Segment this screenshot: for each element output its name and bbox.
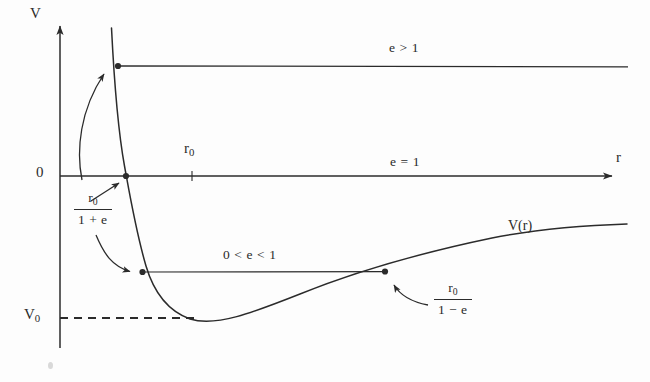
v-min-label-base: V	[24, 306, 35, 322]
potential-curve-group	[112, 28, 628, 321]
perihelion-fraction-bar	[74, 209, 112, 210]
energy-level-lines	[60, 66, 628, 318]
elliptic-aphelion-dot	[382, 268, 388, 274]
perihelion-numerator: r0	[74, 190, 112, 209]
turning-point-markers	[115, 63, 388, 275]
r0-tick-label-subscript: 0	[189, 146, 194, 158]
perihelion-denominator: 1 + e	[74, 211, 112, 227]
regime-label-hyperbolic: e > 1	[389, 41, 419, 55]
parabolic-turning-point-dot	[123, 173, 129, 179]
annotation-arrows	[80, 74, 428, 305]
arrow-to-hyperbolic-point	[80, 74, 104, 180]
elliptic-perihelion-dot	[139, 269, 145, 275]
perihelion-numerator-subscript: 0	[93, 196, 98, 207]
aphelion-numerator: r0	[434, 280, 472, 299]
axes-group	[60, 26, 612, 348]
hyperbolic-level-line	[117, 66, 628, 67]
aphelion-fraction-bar	[434, 299, 472, 300]
potential-curve-V-of-r	[112, 28, 628, 321]
r0-tick-label: r0	[184, 141, 194, 158]
arrow-to-elliptic-perihelion	[96, 235, 130, 272]
hyperbolic-turning-point-dot	[115, 63, 121, 69]
potential-curve-label: V(r)	[508, 219, 532, 233]
v-min-label: V0	[24, 307, 40, 324]
y-axis-label: V	[30, 6, 41, 21]
scan-artifact-speck	[48, 362, 53, 369]
aphelion-denominator: 1 − e	[434, 301, 472, 317]
aphelion-numerator-subscript: 0	[453, 286, 458, 297]
regime-label-elliptic: 0 < e < 1	[223, 248, 277, 262]
origin-label: 0	[36, 165, 44, 180]
aphelion-fraction-label: r0 1 − e	[434, 280, 472, 317]
figure-container: V r 0 V0 r0 e > 1 e = 1 0 < e < 1 V(r) r…	[0, 0, 650, 382]
arrow-to-elliptic-aphelion	[394, 285, 428, 305]
perihelion-fraction-label: r0 1 + e	[74, 190, 112, 227]
x-axis-label: r	[616, 150, 621, 165]
v-min-label-subscript: 0	[35, 312, 40, 324]
regime-label-parabolic: e = 1	[390, 155, 420, 169]
